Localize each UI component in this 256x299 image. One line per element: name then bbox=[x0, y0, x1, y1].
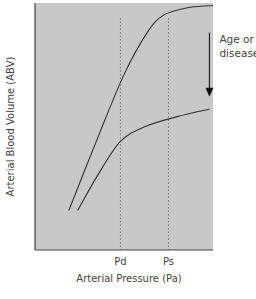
chart: PdPs Arterial Pressure (Pa) Arterial Blo… bbox=[0, 0, 256, 299]
x-tick-label-pd: Pd bbox=[114, 256, 126, 267]
plot-area bbox=[35, 3, 213, 250]
x-tick-label-ps: Ps bbox=[163, 256, 174, 267]
annotation-label-line2: disease bbox=[219, 47, 256, 59]
annotation-label-line1: Age or bbox=[219, 33, 254, 45]
x-axis-label: Arterial Pressure (Pa) bbox=[76, 273, 181, 284]
y-axis-label: Arterial Blood Volume (ABV) bbox=[5, 56, 16, 196]
